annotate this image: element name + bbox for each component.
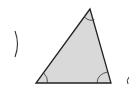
- triangle: [36, 9, 111, 83]
- paren-right-partial: [127, 77, 129, 84]
- paren-left: [15, 31, 18, 57]
- triangle-diagram: [0, 0, 129, 89]
